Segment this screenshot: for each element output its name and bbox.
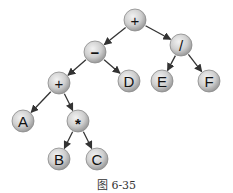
tree-node: B xyxy=(48,148,70,170)
tree-node: C xyxy=(86,148,108,170)
figure-caption: 图 6-35 xyxy=(0,176,233,192)
tree-edge xyxy=(104,27,125,44)
tree-node: − xyxy=(84,41,106,63)
tree-node: + xyxy=(48,72,70,94)
node-label: B xyxy=(54,151,64,168)
tree-edge xyxy=(146,26,171,40)
tree-node: F xyxy=(198,70,220,92)
tree-edge xyxy=(64,132,72,149)
node-label: − xyxy=(91,44,100,61)
tree-node: / xyxy=(170,34,192,56)
node-label: E xyxy=(157,73,167,90)
tree-edge xyxy=(31,92,50,113)
tree-edge xyxy=(68,60,86,75)
tree-edge xyxy=(104,60,120,73)
node-label: A xyxy=(18,113,28,130)
tree-edge xyxy=(188,54,201,71)
node-label: C xyxy=(92,151,103,168)
tree-nodes: +−/+DEFA*BC xyxy=(12,9,220,170)
tree-node: A xyxy=(12,110,34,132)
tree-node: D xyxy=(118,70,140,92)
tree-edge xyxy=(83,132,91,149)
tree-node: + xyxy=(124,9,146,31)
node-label: F xyxy=(204,73,213,90)
expression-tree: +−/+DEFA*BC xyxy=(0,0,233,193)
expression-tree-figure: +−/+DEFA*BC 图 6-35 xyxy=(0,0,233,193)
tree-edge xyxy=(64,94,72,111)
tree-node: * xyxy=(67,110,89,132)
node-label: + xyxy=(131,12,140,29)
tree-edge xyxy=(168,56,176,71)
tree-node: E xyxy=(151,70,173,92)
node-label: D xyxy=(124,73,135,90)
node-label: + xyxy=(55,75,64,92)
node-label: * xyxy=(75,115,81,132)
